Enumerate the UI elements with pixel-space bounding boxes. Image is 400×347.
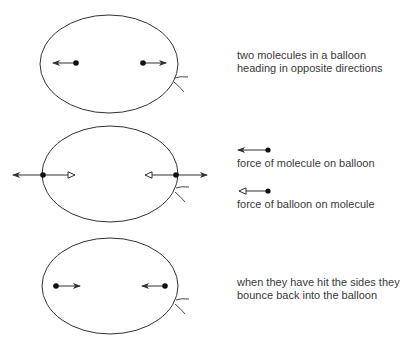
legend-label-balloon-on-molecule: force of balloon on molecule xyxy=(237,198,375,211)
caption-line: bounce back into the balloon xyxy=(237,289,400,302)
molecule-right-rebound xyxy=(142,283,168,289)
molecule-left-collision xyxy=(13,172,75,178)
legend-symbol-balloon-on-molecule xyxy=(239,188,271,193)
balloon-outline xyxy=(42,126,178,222)
panel-collision xyxy=(13,126,207,222)
legend-label-molecule-on-balloon: force of molecule on balloon xyxy=(237,157,375,170)
panel-before xyxy=(40,15,188,113)
caption-line: when they have hit the sides they xyxy=(237,276,400,289)
panel-after xyxy=(42,238,189,334)
balloon-knot-icon xyxy=(175,187,189,202)
balloon-outline xyxy=(40,15,178,113)
caption-line: heading in opposite directions xyxy=(237,62,383,75)
molecule-left-rebound xyxy=(53,283,80,289)
caption-before: two molecules in a balloon heading in op… xyxy=(237,49,383,75)
molecule-right-collision xyxy=(145,172,207,178)
molecule-left xyxy=(53,60,79,66)
molecule-right xyxy=(140,60,166,66)
legend-symbol-molecule-on-balloon xyxy=(238,147,271,152)
caption-line: two molecules in a balloon xyxy=(237,49,383,62)
balloon-knot-icon xyxy=(174,77,188,92)
balloon-knot-icon xyxy=(175,299,189,314)
caption-after: when they have hit the sides they bounce… xyxy=(237,276,400,302)
